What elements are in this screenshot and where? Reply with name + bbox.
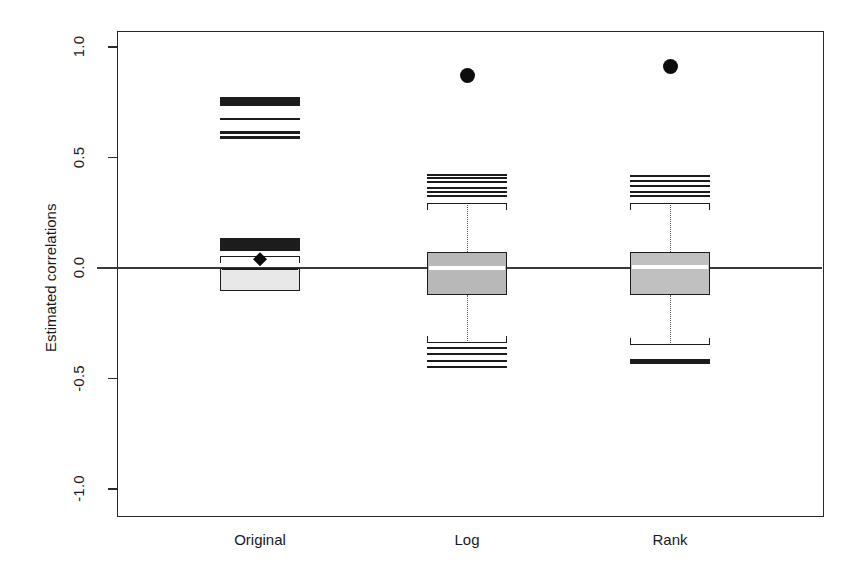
y-tick-mark xyxy=(108,46,117,48)
median-line xyxy=(429,266,506,270)
outlier-band xyxy=(220,238,300,251)
median-line xyxy=(632,265,709,269)
outlier-band xyxy=(220,118,300,120)
whisker-upper xyxy=(670,203,671,252)
median-line xyxy=(222,268,299,270)
outlier-band xyxy=(427,353,507,355)
y-tick-mark xyxy=(108,488,117,490)
outlier-band xyxy=(630,185,710,188)
y-tick-mark xyxy=(108,157,117,159)
outlier-band xyxy=(427,366,507,368)
outlier-band xyxy=(427,195,507,197)
whisker-cap-lower xyxy=(427,336,507,343)
outlier-band xyxy=(630,180,710,182)
y-tick-label: -0.5 xyxy=(70,355,87,401)
outlier-band xyxy=(630,359,710,364)
outlier-band xyxy=(427,360,507,362)
outlier-band xyxy=(630,191,710,194)
y-tick-label: 0.0 xyxy=(70,245,87,291)
box-rank xyxy=(630,252,710,295)
whisker-cap-lower xyxy=(630,338,710,345)
outlier-band xyxy=(220,136,300,140)
outlier-band xyxy=(630,195,710,198)
x-tick-label-rank: Rank xyxy=(610,531,730,548)
y-tick-mark xyxy=(108,378,117,380)
outlier-band xyxy=(427,187,507,189)
x-tick-label-original: Original xyxy=(200,531,320,548)
outlier-band xyxy=(220,97,300,106)
outlier-band xyxy=(427,347,507,350)
outlier-band xyxy=(427,174,507,176)
y-axis-title: Estimated correlations xyxy=(42,204,59,352)
outlier-band xyxy=(427,177,507,179)
y-tick-label: 1.0 xyxy=(70,24,87,70)
y-tick-label: 0.5 xyxy=(70,134,87,180)
chart-canvas: Estimated correlations 1.00.50.0-0.5-1.0… xyxy=(0,0,866,574)
y-tick-label: -1.0 xyxy=(70,466,87,512)
x-tick-label-log: Log xyxy=(407,531,527,548)
outlier-band xyxy=(630,175,710,177)
whisker-cap-upper xyxy=(427,203,507,210)
outlier-band xyxy=(427,191,507,193)
whisker-upper xyxy=(467,203,468,252)
whisker-cap-upper xyxy=(630,203,710,210)
box-original xyxy=(220,268,300,291)
outlier-point xyxy=(663,59,678,74)
outlier-band xyxy=(220,131,300,134)
outlier-band xyxy=(427,181,507,183)
outlier-point xyxy=(460,68,475,83)
box-log xyxy=(427,252,507,295)
